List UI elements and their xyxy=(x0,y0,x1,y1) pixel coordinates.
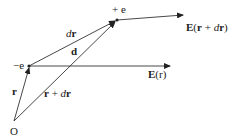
dipole-diagram: O −e + e r r + dr dr d E(r) E(r + dr) xyxy=(0,0,232,140)
r-label: r xyxy=(12,85,17,97)
origin-label: O xyxy=(10,125,18,137)
neg-charge-point xyxy=(27,64,30,67)
vector-r-plus-dr xyxy=(14,22,115,121)
vector-E-r-plus-dr xyxy=(117,15,183,20)
pos-charge-label: + e xyxy=(112,3,126,15)
E-r-plus-dr-label: E(r + dr) xyxy=(186,21,228,34)
r-plus-dr-label: r + dr xyxy=(44,87,71,99)
neg-charge-label: −e xyxy=(13,59,24,71)
d-label: d xyxy=(71,45,77,57)
dr-label: dr xyxy=(66,27,77,39)
pos-charge-point xyxy=(115,18,118,21)
E-r-label: E(r) xyxy=(148,68,167,81)
